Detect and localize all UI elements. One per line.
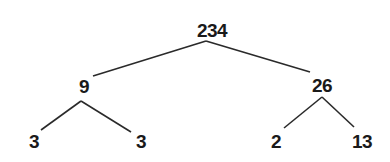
node-left: 9 [79,77,89,96]
node-root: 234 [197,21,227,40]
edge-root-right [206,41,310,72]
factor-tree-diagram: 234 9 26 3 3 2 13 [0,0,390,162]
node-right: 26 [312,76,332,95]
edge-left-rightchild [81,101,131,132]
edge-root-left [93,41,206,76]
node-right-left: 2 [271,132,281,151]
edge-right-leftchild [284,97,322,128]
edge-left-leftchild [41,101,81,130]
node-left-left: 3 [29,132,39,151]
node-left-right: 3 [136,132,146,151]
node-right-right: 13 [352,132,372,151]
edge-right-rightchild [322,97,354,127]
